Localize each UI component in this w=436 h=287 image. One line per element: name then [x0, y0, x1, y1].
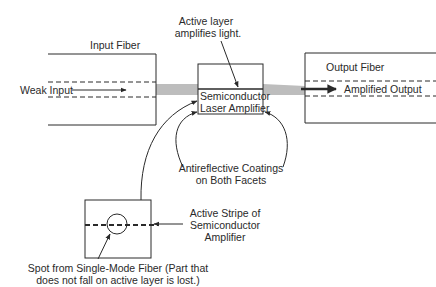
coating-arrow-left [176, 112, 197, 167]
spot-label-line1: Spot from Single-Mode Fiber (Part that [28, 262, 208, 274]
stripe-label-line1: Active Stripe of [190, 207, 261, 219]
amplifier-label-line2: Laser Amplifier [200, 102, 270, 114]
weak-input-label: Weak Input [20, 84, 73, 96]
amplifier-label-line1: Semiconductor [200, 90, 271, 102]
input-fiber-label: Input Fiber [90, 39, 141, 51]
facet-view [85, 200, 158, 258]
stripe-label-line2: Semiconductor [190, 219, 261, 231]
coatings-label-line1: Antireflective Coatings [179, 162, 283, 174]
coatings-label-line2: on Both Facets [196, 174, 267, 186]
fiber-spot [107, 214, 127, 234]
output-fiber-label: Output Fiber [326, 61, 385, 73]
amplified-output-label: Amplified Output [344, 83, 422, 95]
spot-label-line2: does not fall on active layer is lost.) [36, 274, 199, 286]
amplifier-diagram: Input Fiber Weak Input Semiconductor Las… [0, 0, 436, 287]
spot-pointer [98, 234, 110, 259]
coating-arrow-right [265, 112, 287, 167]
active-layer-note-line2: amplifies light. [175, 27, 242, 39]
stripe-label-line3: Amplifier [205, 231, 246, 243]
active-layer-note-line1: Active layer [179, 15, 234, 27]
